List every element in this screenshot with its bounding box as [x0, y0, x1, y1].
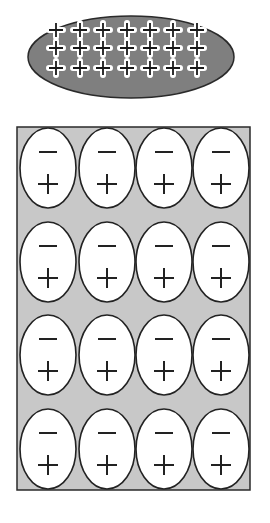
dipole-molecule: [79, 128, 135, 208]
dielectric-polarization-diagram: [0, 0, 270, 523]
dipole-molecule: [79, 222, 135, 302]
dipole-molecule: [20, 409, 76, 489]
dipole-ellipse: [193, 315, 249, 395]
dielectric-slab: [17, 127, 250, 490]
dipole-molecule: [193, 222, 249, 302]
dipole-molecule: [136, 222, 192, 302]
charged-plate: [28, 16, 234, 98]
dipole-ellipse: [193, 128, 249, 208]
dipole-ellipse: [20, 409, 76, 489]
dipole-ellipse: [20, 315, 76, 395]
dipole-molecule: [79, 409, 135, 489]
dipole-ellipse: [79, 409, 135, 489]
dipole-ellipse: [136, 128, 192, 208]
dipole-ellipse: [193, 409, 249, 489]
dipole-ellipse: [136, 315, 192, 395]
dipole-ellipse: [79, 315, 135, 395]
dipole-molecule: [193, 409, 249, 489]
dipole-molecule: [20, 315, 76, 395]
dipole-ellipse: [20, 222, 76, 302]
dipole-molecule: [79, 315, 135, 395]
dipole-molecule: [193, 128, 249, 208]
dipole-molecule: [20, 128, 76, 208]
dipole-ellipse: [20, 128, 76, 208]
dipole-ellipse: [136, 222, 192, 302]
dipole-molecule: [193, 315, 249, 395]
dipole-molecule: [20, 222, 76, 302]
dipole-molecule: [136, 128, 192, 208]
dipole-ellipse: [193, 222, 249, 302]
dipole-molecule: [136, 315, 192, 395]
dipole-ellipse: [79, 222, 135, 302]
dipole-ellipse: [79, 128, 135, 208]
dipole-molecule: [136, 409, 192, 489]
dipole-ellipse: [136, 409, 192, 489]
